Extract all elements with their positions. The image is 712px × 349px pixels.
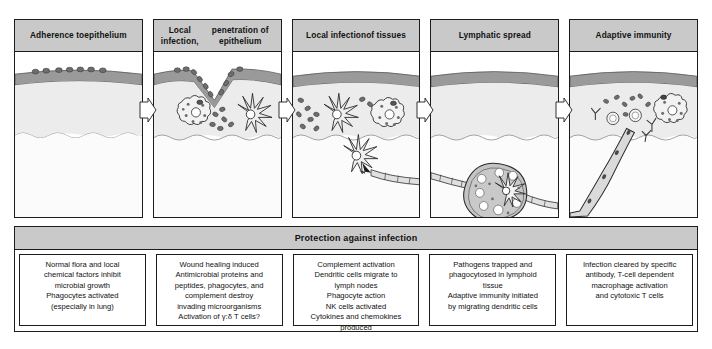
protection-block: Protection against infection Normal flor… [14, 226, 698, 332]
stage-header-adaptive: Adaptive immunity [569, 19, 698, 52]
protection-line: by migrating dendritic cells [433, 302, 552, 312]
stage-column-tissues: Local infection of tissues [292, 19, 421, 218]
protection-line: Activation of γ:δ T cells? [160, 312, 279, 322]
figure-root: Adherence to epithelium [0, 0, 712, 349]
stage-column-lymphatic: Lymphatic spread [430, 19, 559, 218]
protection-cell-adaptive: Infection cleared by specific antibody, … [566, 254, 693, 326]
protection-line: invading microorganisms [160, 302, 279, 312]
stage-title-line1: Adaptive immunity [596, 30, 672, 41]
protection-line: and cytotoxic T cells [570, 291, 689, 301]
stage-title-line2: of tissues [366, 30, 406, 41]
protection-title: Protection against infection [15, 227, 697, 250]
stage-header-adherence: Adherence to epithelium [14, 19, 143, 52]
protection-line: produced [297, 323, 416, 333]
protection-line: lymph nodes [297, 281, 416, 291]
adaptive-immunity-illustration [569, 52, 698, 218]
protection-line: Wound healing induced [160, 260, 279, 270]
protection-cell-adherence: Normal flora and local chemical factors … [19, 254, 146, 326]
stage-row: Adherence to epithelium [14, 19, 698, 218]
stage-title-line1: Adherence to [30, 30, 84, 41]
protection-line: NK cells activated [297, 302, 416, 312]
protection-line: Phagocyte action [297, 291, 416, 301]
protection-line: peptides, phagocytes, and [160, 281, 279, 291]
stage-header-penetration: Local infection, penetration of epitheli… [153, 19, 282, 52]
protection-cell-penetration: Wound healing induced Antimicrobial prot… [156, 254, 283, 326]
tissue-infection-illustration [292, 52, 421, 218]
protection-line: Antimicrobial proteins and [160, 270, 279, 280]
protection-line: (especially in lung) [23, 302, 142, 312]
stage-header-lymphatic: Lymphatic spread [430, 19, 559, 52]
protection-line: Dendritic cells migrate to [297, 270, 416, 280]
protection-line: microbial growth [23, 281, 142, 291]
stage-column-penetration: Local infection, penetration of epitheli… [153, 19, 282, 218]
protection-line: complement destroy [160, 291, 279, 301]
stage-title-line1: Local infection, [157, 25, 203, 46]
epithelium-adherence-illustration [14, 52, 143, 218]
stage-title-line1: Local infection [306, 30, 366, 41]
protection-cell-lymphatic: Pathogens trapped and phagocytosed in ly… [429, 254, 556, 326]
protection-line: Cytokines and chemokines [297, 312, 416, 322]
stage-column-adherence: Adherence to epithelium [14, 19, 143, 218]
stage-title-line2: penetration of epithelium [203, 25, 278, 46]
protection-line: antibody, T-cell dependent [570, 270, 689, 280]
protection-line: tissue [433, 281, 552, 291]
protection-line: Pathogens trapped and [433, 260, 552, 270]
protection-line: Complement activation [297, 260, 416, 270]
epithelium-penetration-illustration [153, 52, 282, 218]
protection-line: Adaptive immunity initiated [433, 291, 552, 301]
protection-line: Phagocytes activated [23, 291, 142, 301]
lymph-node-illustration [430, 52, 559, 218]
protection-line: chemical factors inhibit [23, 270, 142, 280]
protection-line: Infection cleared by specific [570, 260, 689, 270]
protection-cell-tissues: Complement activation Dendritic cells mi… [293, 254, 420, 326]
protection-line: phagocytosed in lymphoid [433, 270, 552, 280]
protection-line: macrophage activation [570, 281, 689, 291]
protection-line: Normal flora and local [23, 260, 142, 270]
stage-column-adaptive: Adaptive immunity [569, 19, 698, 218]
stage-title-line2: epithelium [84, 30, 127, 41]
protection-cells: Normal flora and local chemical factors … [15, 250, 697, 331]
stage-header-tissues: Local infection of tissues [292, 19, 421, 52]
stage-title-line1: Lymphatic spread [459, 30, 531, 41]
